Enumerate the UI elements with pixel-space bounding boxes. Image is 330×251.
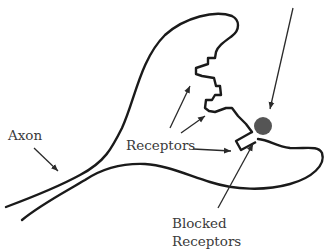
incoming-molecule-arrow <box>270 8 293 109</box>
blocked-receptors-label-line1: Blocked <box>172 214 241 232</box>
neuron-diagram: Axon Receptors Blocked Receptors <box>0 0 330 251</box>
axon-arrow <box>34 148 58 171</box>
blocked-receptors-label: Blocked Receptors <box>172 214 241 250</box>
receptor-arrow-upper <box>170 86 190 128</box>
blocked-receptors-label-line2: Receptors <box>172 232 241 250</box>
blocker-molecule <box>254 117 272 135</box>
receptors-label: Receptors <box>126 136 195 154</box>
neuron-upper-outline <box>6 14 252 207</box>
blocked-receptor <box>236 132 256 150</box>
diagram-drawing <box>0 0 330 251</box>
receptor-arrow-middle <box>181 116 205 133</box>
axon-label: Axon <box>8 126 42 144</box>
receptor-arrow-lower <box>193 149 231 151</box>
blocked-receptor-arrow <box>218 144 253 208</box>
